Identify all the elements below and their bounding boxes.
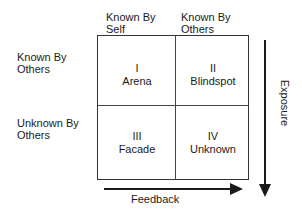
exposure-label: Exposure — [279, 78, 291, 128]
grid-vertical-divider — [175, 35, 176, 180]
quadrant-numeral: III — [99, 130, 175, 143]
quadrant-numeral: II — [175, 62, 251, 75]
quadrant-blindspot: II Blindspot — [175, 62, 251, 88]
column-header-line2: Others — [181, 23, 231, 35]
column-header-line2: Self — [106, 23, 156, 35]
row-header-line1: Known By — [17, 51, 67, 63]
arrow-down-icon — [259, 184, 271, 197]
feedback-arrow-shaft — [104, 188, 232, 190]
quadrant-name: Arena — [99, 75, 175, 88]
quadrant-name: Facade — [99, 143, 175, 156]
grid-horizontal-divider — [97, 105, 249, 106]
row-header-unknown-by-others: Unknown By Others — [17, 117, 79, 141]
column-header-known-by-others: Known By Others — [181, 11, 231, 35]
row-header-line2: Others — [17, 63, 67, 75]
arrow-right-icon — [230, 183, 243, 195]
quadrant-name: Unknown — [175, 143, 251, 156]
quadrant-unknown: IV Unknown — [175, 130, 251, 156]
column-header-known-by-self: Known By Self — [106, 11, 156, 35]
column-header-line1: Known By — [106, 11, 156, 23]
quadrant-name: Blindspot — [175, 75, 251, 88]
johari-grid — [97, 35, 249, 180]
quadrant-numeral: IV — [175, 130, 251, 143]
quadrant-numeral: I — [99, 62, 175, 75]
row-header-line2: Others — [17, 129, 79, 141]
row-header-line1: Unknown By — [17, 117, 79, 129]
column-header-line1: Known By — [181, 11, 231, 23]
feedback-label: Feedback — [131, 193, 179, 205]
exposure-arrow-shaft — [264, 40, 266, 187]
quadrant-facade: III Facade — [99, 130, 175, 156]
quadrant-arena: I Arena — [99, 62, 175, 88]
row-header-known-by-others: Known By Others — [17, 51, 67, 75]
